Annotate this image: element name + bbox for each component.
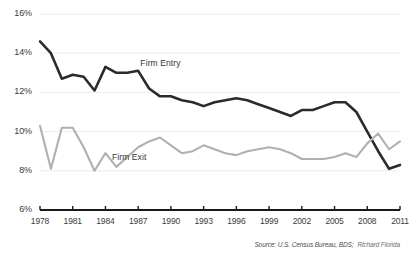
series-label-firm-exit: Firm Exit [112,152,146,162]
x-axis-tick-label: 1978 [31,216,49,226]
source-text: Source: U.S. Census Bureau, BDS; [254,241,353,248]
x-axis-tick-label: 1981 [64,216,82,226]
x-axis-tick-label: 1996 [227,216,245,226]
x-axis-tick-label: 1999 [260,216,278,226]
y-axis-tick-label: 14% [2,47,32,57]
x-axis-tick-label: 1984 [96,216,114,226]
series-line-firm-entry [40,41,400,168]
series-line-firm-exit [40,126,400,171]
y-axis-tick-label: 16% [2,8,32,18]
x-axis-tick-label: 2002 [293,216,311,226]
y-axis-tick-label: 6% [2,204,32,214]
y-axis-tick-label: 10% [2,126,32,136]
x-axis-tick-label: 2005 [325,216,343,226]
y-axis-tick-label: 12% [2,86,32,96]
x-axis-tick-label: 1990 [162,216,180,226]
x-axis-tick-label: 2008 [358,216,376,226]
source-attribution: Source: U.S. Census Bureau, BDS;Richard … [0,241,400,248]
series-label-firm-entry: Firm Entry [140,58,180,68]
y-axis-tick-label: 8% [2,165,32,175]
source-credit: Richard Florida [353,241,400,248]
x-axis-tick-label: 2011 [391,216,409,226]
x-axis-tick-label: 1987 [129,216,147,226]
x-axis-tick-label: 1993 [194,216,212,226]
